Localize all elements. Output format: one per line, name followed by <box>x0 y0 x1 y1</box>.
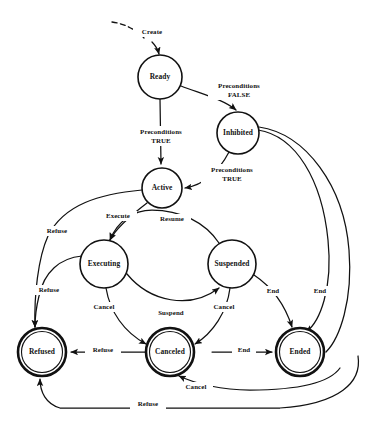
edge-label-preconditions-true-line2: TRUE <box>151 137 171 144</box>
edge-label-refuse-executing: Refuse <box>39 286 60 293</box>
state-machine-diagram: Ready Inhibited Active Executing Suspend… <box>0 0 373 423</box>
edge-executing-to-canceled <box>106 288 146 344</box>
edge-label-cancel-executing: Cancel <box>94 303 115 310</box>
edge-label-end-inhibited: End <box>314 287 327 294</box>
edge-label-suspend: Suspend <box>158 309 184 316</box>
edge-label-create: Create <box>142 28 162 35</box>
edge-label-refuse-bottom: Refuse <box>138 400 159 407</box>
edge-label-cancel-bottom: Cancel <box>186 383 207 390</box>
state-label-refused: Refused <box>29 347 56 356</box>
edge-label-end-suspended: End <box>267 287 280 294</box>
edge-create-arrow <box>152 42 159 54</box>
state-label-ready: Ready <box>150 72 171 81</box>
state-label-ended: Ended <box>289 347 311 356</box>
state-label-active: Active <box>152 183 173 192</box>
edge-label-refuse-active: Refuse <box>47 227 68 234</box>
edge-inhibited-outer-arc <box>259 127 350 352</box>
edge-label-preconditions-false-line2: FALSE <box>228 91 251 98</box>
edge-suspended-to-canceled <box>195 288 230 344</box>
edge-label-execute: Execute <box>106 212 130 219</box>
state-diagram-canvas: Ready Inhibited Active Executing Suspend… <box>0 0 373 423</box>
edge-inhibited-to-ended <box>258 130 329 332</box>
edge-label-refuse-canceled: Refuse <box>93 346 114 353</box>
edge-suspended-to-ended <box>254 275 292 327</box>
edge-label-end-canceled: End <box>238 346 251 353</box>
edge-label-preconditions-true-line1: Preconditions <box>140 128 182 135</box>
edge-label-preconditions-false-line1: Preconditions <box>218 82 260 89</box>
edge-active-to-executing <box>110 203 147 240</box>
state-label-canceled: Canceled <box>155 347 186 356</box>
state-label-inhibited: Inhibited <box>223 128 254 137</box>
edge-label-preconditions-true-b-line2: TRUE <box>222 175 242 182</box>
state-label-suspended: Suspended <box>215 259 251 268</box>
state-label-executing: Executing <box>88 259 121 268</box>
edge-label-preconditions-true-b-line1: Preconditions <box>211 166 253 173</box>
edge-label-resume: Resume <box>160 215 184 222</box>
edge-executing-to-suspended <box>127 274 219 301</box>
edge-label-cancel-suspended: Cancel <box>214 303 235 310</box>
